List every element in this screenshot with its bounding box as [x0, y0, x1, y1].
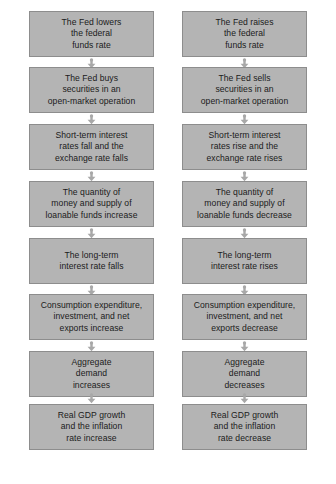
- footer: MyEconLab animation: [0, 452, 336, 484]
- flow-node-label: The Fed buys securities in an open-marke…: [45, 73, 139, 107]
- flow-node-label: Short-term interest rates fall and the e…: [52, 130, 131, 164]
- arrow-down-icon: [239, 393, 250, 404]
- flow-node-left-6: Consumption expenditure, investment, and…: [29, 294, 154, 340]
- flow-node-label: Real GDP growth and the inflation rate d…: [208, 410, 281, 444]
- flow-node-label: Consumption expenditure, investment, and…: [191, 300, 299, 334]
- flow-node-left-4: The quantity of money and supply of loan…: [29, 181, 154, 227]
- flow-node-label: Consumption expenditure, investment, and…: [38, 300, 146, 334]
- flow-node-right-7: Aggregate demand decreases: [182, 351, 307, 397]
- flow-node-label: Short-term interest rates rise and the e…: [204, 130, 286, 164]
- flow-node-label: The long-term interest rate rises: [208, 250, 281, 273]
- flow-node-label: The Fed raises the federal funds rate: [212, 17, 276, 51]
- flow-node-right-2: The Fed sells securities in an open-mark…: [182, 67, 307, 113]
- flow-node-right-4: The quantity of money and supply of loan…: [182, 181, 307, 227]
- flow-node-right-8: Real GDP growth and the inflation rate d…: [182, 404, 307, 450]
- flow-node-right-1: The Fed raises the federal funds rate: [182, 11, 307, 57]
- flow-node-label: Aggregate demand decreases: [221, 357, 267, 391]
- flow-node-right-3: Short-term interest rates rise and the e…: [182, 124, 307, 170]
- flow-node-label: Aggregate demand increases: [68, 357, 114, 391]
- flow-node-left-1: The Fed lowers the federal funds rate: [29, 11, 154, 57]
- flow-node-left-7: Aggregate demand increases: [29, 351, 154, 397]
- monetary-policy-flowchart: The Fed lowers the federal funds rate Th…: [0, 0, 336, 484]
- flow-node-left-8: Real GDP growth and the inflation rate i…: [29, 404, 154, 450]
- flow-node-left-2: The Fed buys securities in an open-marke…: [29, 67, 154, 113]
- flow-node-label: The quantity of money and supply of loan…: [43, 187, 141, 221]
- flow-node-label: Real GDP growth and the inflation rate i…: [55, 410, 128, 444]
- flow-node-left-5: The long-term interest rate falls: [29, 238, 154, 284]
- flow-node-right-5: The long-term interest rate rises: [182, 238, 307, 284]
- flow-node-label: The Fed sells securities in an open-mark…: [198, 73, 292, 107]
- flow-node-label: The Fed lowers the federal funds rate: [59, 17, 125, 51]
- flow-node-label: The long-term interest rate falls: [57, 250, 127, 273]
- flow-node-left-3: Short-term interest rates fall and the e…: [29, 124, 154, 170]
- flow-node-label: The quantity of money and supply of loan…: [194, 187, 295, 221]
- flow-node-right-6: Consumption expenditure, investment, and…: [182, 294, 307, 340]
- arrow-down-icon: [86, 393, 97, 404]
